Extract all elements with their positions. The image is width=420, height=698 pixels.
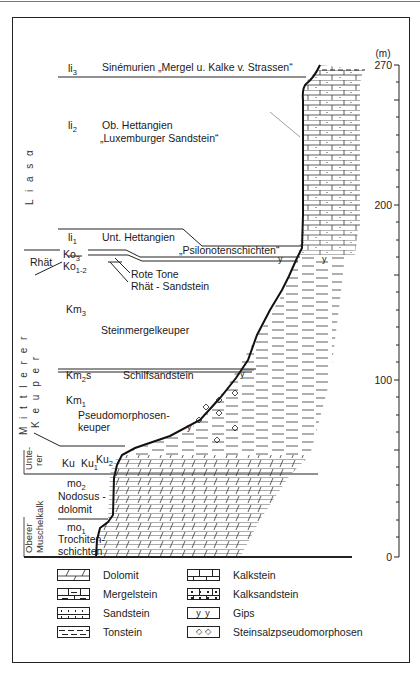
pseudomorph-pattern-icon: ◇ ◇ [187, 626, 220, 638]
unit-name-sinemurien: Sinémurien „Mergel u. Kalke v. Strassen“ [102, 61, 293, 73]
legend-label: Steinsalzpseudomorphosen [233, 626, 363, 638]
unit-code-li3: li3 [68, 62, 77, 77]
unit-name-nodosusdolomit-1: Nodosus - [58, 490, 106, 502]
legend-item-kalkstein: Kalkstein [187, 569, 276, 581]
legend-item-steinsalzpseudomorphosen: ◇ ◇ Steinsalzpseudomorphosen [187, 626, 363, 638]
kalkstein-pattern-icon [187, 569, 220, 581]
scale-tick-200: 200 [374, 199, 392, 211]
kalksandstein-pattern-icon [187, 588, 220, 600]
unit-name-unt-hettangien: Unt. Hettangien [102, 231, 175, 243]
group-label-mittlerer: M i t t l e r e r [18, 334, 29, 435]
unit-name-pseudomorphosenkeuper-2: keuper [78, 421, 111, 433]
mergelstein-pattern-icon [57, 588, 90, 600]
legend-item-tonstein: Tonstein [57, 626, 142, 638]
legend-item-sandstein: Sandstein [57, 607, 150, 619]
svg-text:y: y [322, 254, 327, 264]
unit-code-ku: Ku [62, 457, 75, 469]
scale-unit: (m) [376, 48, 391, 59]
legend-item-kalksandstein: Kalksandstein [187, 588, 298, 600]
unit-name-rhaet-sandstein: Rhät - Sandstein [131, 280, 209, 292]
unit-code-ko1-2: Ko1-2 [63, 260, 87, 275]
unit-code-km1: Km1 [66, 394, 86, 409]
legend-label: Mergelstein [103, 588, 157, 600]
unit-name-rote-tone: Rote Tone [131, 268, 179, 280]
scale-tick-270: 270 [374, 59, 392, 71]
unit-name-trochitenschichten-2: schichten [58, 545, 103, 557]
gips-pattern-icon: y y [187, 607, 220, 619]
legend-label: Tonstein [103, 626, 142, 638]
sandstein-pattern-icon [57, 607, 90, 619]
group-label-lias: L i a s α [24, 148, 35, 205]
unit-name-trochitenschichten-1: Trochiten- [58, 533, 105, 545]
depth-scale-axis: (m) 270 200 100 0 [374, 48, 399, 563]
unit-name-ob-hettangien: Ob. Hettangien [102, 119, 173, 131]
unit-name-steinmergelkeuper: Steinmergelkeuper [101, 324, 190, 336]
unit-code-km2s: Km2s [66, 369, 91, 384]
legend-label: Sandstein [103, 607, 150, 619]
unit-name-pseudomorphosenkeuper-1: Pseudomorphosen- [78, 409, 170, 421]
svg-text:y: y [187, 422, 192, 432]
group-label-oberer: Oberer [23, 523, 34, 553]
group-label-keuper: K e u p e r [30, 354, 41, 428]
tonstein-pattern-icon [57, 626, 90, 638]
legend-label: Kalkstein [233, 569, 276, 581]
unit-code-km3: Km3 [66, 303, 86, 318]
legend-label: Kalksandstein [233, 588, 298, 600]
legend-label: Gips [233, 607, 255, 619]
svg-text:y: y [240, 369, 245, 379]
unit-name-nodosusdolomit-2: dolomit [58, 503, 92, 515]
unit-code-li2: li2 [68, 119, 77, 134]
unit-name-luxemburger-sandstein: „Luxemburger Sandstein“ [100, 132, 219, 144]
unit-label-rhaet: Rhät [30, 256, 52, 268]
legend-item-dolomit: Dolomit [57, 569, 139, 581]
unit-name-schilfsandstein: Schilfsandstein [123, 369, 194, 381]
legend-label: Dolomit [103, 569, 139, 581]
unit-code-li1: li1 [68, 231, 77, 246]
group-label-unterer-2: rer [33, 454, 44, 466]
group-label-muschelkalk: Muschelkalk [34, 500, 45, 553]
legend-item-gips: y y Gips [187, 607, 255, 619]
unit-name-psilonotenschichten: „Psilonotenschichten“ [179, 244, 280, 256]
scale-tick-100: 100 [374, 374, 392, 386]
scale-tick-0: 0 [386, 551, 392, 563]
unit-code-ku2: Ku2 [96, 453, 113, 468]
dolomit-pattern-icon [57, 569, 90, 581]
legend-item-mergelstein: Mergelstein [57, 588, 157, 600]
